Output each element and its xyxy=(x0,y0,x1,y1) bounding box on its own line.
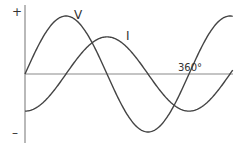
i-label: I xyxy=(126,29,130,43)
minus-label: – xyxy=(12,126,18,140)
deg360-label: 360° xyxy=(178,62,202,73)
waveform-diagram: + – V I 360° xyxy=(0,0,248,149)
plus-label: + xyxy=(12,5,22,19)
v-label: V xyxy=(74,8,83,22)
